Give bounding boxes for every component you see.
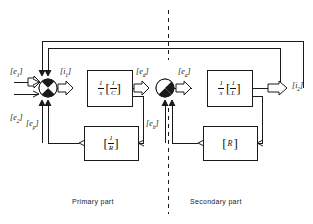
arrow-after-sum2 xyxy=(176,81,191,95)
arrow-into-sum2 xyxy=(134,81,149,95)
arrowhead-gain2-into-sum2 xyxy=(169,100,175,106)
secondary-gain-to-sum2 xyxy=(172,102,198,143)
secondary-feedback-gain-block: [ R ] xyxy=(203,126,257,160)
caption-secondary-part: Secondary part xyxy=(190,198,242,205)
signal-label-ep: [ep] xyxy=(26,120,39,130)
block-diagram-figure: 1 s [ 1 C ] 1 s [ 1 L ] [ 1 xyxy=(0,0,313,224)
signal-label-e1: [e1] xyxy=(10,68,23,78)
primary-integrator-fraction: 1 s xyxy=(98,80,104,97)
arrow-after-sum1 xyxy=(58,81,73,95)
arrowhead-eb-into-sum2 xyxy=(162,100,168,106)
primary-gain-to-sum1 xyxy=(48,102,79,143)
sum-2-glyph xyxy=(156,79,174,97)
arrowhead-ep-into-sum1 xyxy=(39,100,45,106)
diagram-canvas xyxy=(0,0,313,224)
signal-label-i2: [i2] xyxy=(292,82,303,92)
arrowhead-outer-into-sum1 xyxy=(39,70,45,76)
arrowhead-inner-into-sum1 xyxy=(45,70,51,76)
signal-label-ed: [ed] xyxy=(136,68,149,78)
sum-1-glyph xyxy=(39,79,57,97)
primary-gain-fraction: 1 C xyxy=(110,80,117,97)
signal-label-ea: [ea] xyxy=(178,68,191,78)
primary-gain-bracket-close: ] xyxy=(117,82,121,95)
secondary-feedback-bracket-close: ] xyxy=(233,137,237,150)
secondary-integrator-block: 1 s [ 1 L ] xyxy=(207,70,252,106)
primary-feedback-bracket-close: ] xyxy=(114,137,118,150)
signal-label-e2: [e2] xyxy=(10,114,23,124)
signal-label-i1: [i1] xyxy=(60,68,71,78)
caption-primary-part: Primary part xyxy=(72,198,114,205)
signal-label-eb: [eb] xyxy=(146,120,159,130)
secondary-integrator-fraction: 1 s xyxy=(218,80,224,97)
arrow-output xyxy=(268,81,287,95)
secondary-gain-bracket-close: ] xyxy=(236,82,240,95)
arrowhead-gain-into-sum1 xyxy=(45,100,51,106)
primary-feedback-gain-block: [ 1 R ] xyxy=(84,126,138,160)
primary-integrator-block: 1 s [ 1 C ] xyxy=(87,70,132,106)
